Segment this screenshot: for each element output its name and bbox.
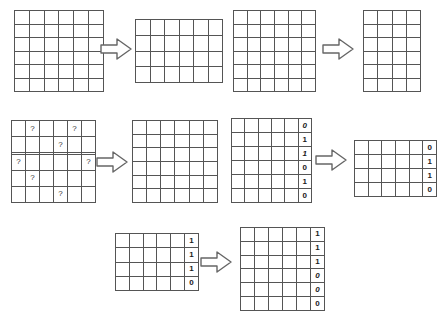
grid-cell[interactable] (258, 133, 271, 147)
grid-cell[interactable] (29, 11, 44, 25)
grid-cell[interactable] (133, 121, 147, 135)
grid-cell[interactable] (368, 169, 382, 183)
grid-cell[interactable] (161, 134, 175, 148)
grid-cell[interactable] (203, 175, 217, 189)
grid-cell[interactable] (116, 276, 130, 290)
grid-cell[interactable] (255, 255, 269, 269)
grid-cell[interactable] (382, 183, 396, 197)
grid-cell[interactable] (29, 38, 44, 52)
grid-cell[interactable] (258, 119, 271, 133)
grid-cell[interactable]: 1 (423, 169, 437, 183)
grid-cell[interactable] (147, 175, 161, 189)
grid-cell[interactable] (355, 169, 369, 183)
grid-cell[interactable] (203, 189, 217, 203)
grid-cell[interactable] (54, 170, 68, 186)
grid-cell[interactable] (302, 51, 316, 65)
grid-cell[interactable] (189, 121, 203, 135)
grid-cell[interactable] (12, 186, 26, 202)
grid-cell[interactable] (59, 38, 74, 52)
grid-cell[interactable] (406, 11, 420, 25)
grid-cell[interactable] (274, 51, 288, 65)
grid-cell[interactable] (82, 186, 96, 202)
grid-cell[interactable]: ? (82, 154, 96, 170)
grid-cell[interactable] (274, 11, 288, 25)
grid-cell[interactable] (157, 276, 171, 290)
grid-cell[interactable] (157, 234, 171, 248)
grid-cell[interactable] (283, 283, 297, 297)
grid-cell[interactable] (406, 65, 420, 79)
grid-cell[interactable] (232, 189, 245, 203)
grid-cell[interactable] (392, 11, 406, 25)
grid-cell[interactable] (378, 51, 392, 65)
grid-cell[interactable] (245, 161, 258, 175)
grid-cell[interactable] (409, 141, 423, 155)
grid-cell[interactable] (269, 269, 283, 283)
grid-cell[interactable] (355, 141, 369, 155)
grid-cell[interactable] (382, 141, 396, 155)
grid-cell[interactable] (29, 24, 44, 38)
grid-cell[interactable] (59, 78, 74, 92)
grid-cell[interactable] (133, 134, 147, 148)
grid-cell[interactable] (44, 38, 59, 52)
grid-cell[interactable] (409, 169, 423, 183)
grid-cell[interactable] (245, 175, 258, 189)
grid-cell[interactable] (147, 189, 161, 203)
grid-cell[interactable] (241, 255, 255, 269)
grid-cell[interactable] (189, 134, 203, 148)
grid-cell[interactable] (82, 137, 96, 153)
grid-cell[interactable] (74, 11, 89, 25)
grid-cell[interactable] (255, 241, 269, 255)
grid-cell[interactable] (175, 148, 189, 162)
grid-cell[interactable] (247, 24, 261, 38)
grid-cell[interactable] (285, 119, 298, 133)
grid-cell[interactable] (150, 20, 165, 36)
grid-cell[interactable] (143, 234, 157, 248)
grid-cell[interactable] (232, 175, 245, 189)
grid-cell[interactable] (15, 38, 30, 52)
grid-cell[interactable] (283, 269, 297, 283)
grid-cell[interactable] (203, 134, 217, 148)
grid-cell[interactable] (59, 65, 74, 79)
grid-cell[interactable]: 0 (311, 283, 325, 297)
grid-cell[interactable]: 1 (311, 255, 325, 269)
grid-cell[interactable] (406, 51, 420, 65)
grid-cell[interactable] (15, 65, 30, 79)
grid-cell[interactable] (271, 147, 284, 161)
grid-cell[interactable] (382, 169, 396, 183)
grid-cell[interactable] (12, 170, 26, 186)
grid-cell[interactable] (269, 283, 283, 297)
grid-cell[interactable] (194, 35, 209, 51)
grid-cell[interactable] (44, 65, 59, 79)
grid-cell[interactable] (234, 38, 248, 52)
grid-cell[interactable] (297, 241, 311, 255)
grid-cell[interactable] (203, 148, 217, 162)
grid-cell[interactable] (382, 155, 396, 169)
grid-cell[interactable] (116, 262, 130, 276)
grid-cell[interactable] (261, 11, 275, 25)
grid-cell[interactable]: 0 (423, 141, 437, 155)
grid-cell[interactable] (378, 65, 392, 79)
grid-cell[interactable] (44, 51, 59, 65)
grid-cell[interactable] (150, 67, 165, 83)
grid-cell[interactable] (274, 78, 288, 92)
grid-cell[interactable] (165, 20, 180, 36)
grid-cell[interactable] (179, 20, 194, 36)
grid-cell[interactable] (302, 78, 316, 92)
grid-cell[interactable] (133, 175, 147, 189)
grid-cell[interactable] (179, 51, 194, 67)
grid-cell[interactable] (133, 161, 147, 175)
grid-cell[interactable] (409, 155, 423, 169)
grid-cell[interactable] (302, 24, 316, 38)
grid-cell[interactable] (68, 170, 82, 186)
grid-cell[interactable] (234, 65, 248, 79)
grid-cell[interactable] (271, 119, 284, 133)
grid-cell[interactable] (26, 137, 40, 153)
grid-cell[interactable] (234, 24, 248, 38)
grid-cell[interactable]: 1 (298, 147, 311, 161)
grid-cell[interactable] (364, 11, 378, 25)
grid-cell[interactable] (395, 155, 409, 169)
grid-cell[interactable] (165, 35, 180, 51)
grid-cell[interactable]: 0 (298, 161, 311, 175)
grid-cell[interactable] (261, 65, 275, 79)
grid-cell[interactable] (234, 11, 248, 25)
